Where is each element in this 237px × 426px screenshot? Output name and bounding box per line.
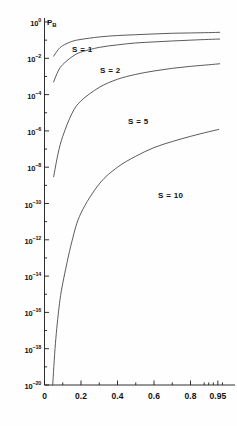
curve-label-s2: S = 2 (100, 66, 120, 75)
y-axis-tick-label: 100 (30, 17, 41, 28)
x-axis-tick-label: 0.95 (198, 391, 237, 401)
y-axis-tick-label: 10−16 (25, 307, 42, 318)
x-axis-tick-label: 0.2 (61, 391, 101, 401)
y-axis-tick-label: 10−14 (25, 271, 42, 282)
curve-label-s10: S = 10 (158, 191, 183, 200)
x-axis-tick-label: 0.4 (98, 391, 138, 401)
y-axis-tick-label: 10−10 (25, 199, 42, 210)
x-axis-tick-label: 0 (25, 391, 65, 401)
y-axis-tick-label: 10−12 (25, 235, 42, 246)
y-axis-title: PB (47, 18, 57, 27)
chart-canvas (0, 0, 237, 426)
curve-s10 (53, 129, 219, 385)
y-axis-tick-label: 10−6 (27, 126, 41, 137)
y-axis-tick-label: 10−2 (27, 53, 41, 64)
x-axis-tick-label: 0.6 (134, 391, 174, 401)
y-axis-tick-label: 10−18 (25, 344, 42, 355)
curve-label-s5: S = 5 (128, 117, 148, 126)
y-axis-tick-label: 10−20 (25, 380, 42, 391)
y-axis-tick-label: 10−8 (27, 162, 41, 173)
y-axis-tick-label: 10−4 (27, 90, 41, 101)
chart-figure: 10010−210−410−610−810−1010−1210−1410−161… (0, 0, 237, 426)
curve-label-s1: S = 1 (72, 45, 92, 54)
